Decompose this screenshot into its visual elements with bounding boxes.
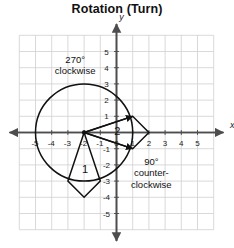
y-tick-label: 3 (104, 79, 108, 88)
clockwise-annotation: 270°clockwise (55, 54, 96, 77)
y-tick-label: -2 (103, 160, 110, 169)
x-tick-label: 1 (130, 138, 134, 147)
y-tick-label: 4 (104, 63, 108, 72)
counterclockwise-degrees: 90° (131, 156, 172, 168)
y-tick-label: 5 (104, 47, 108, 56)
coordinate-plane: -5-4-3-2-101234554321-1-2-3-4-5xy12270°c… (0, 20, 234, 248)
shape-2-label: 2 (114, 125, 120, 137)
x-tick-label: 2 (147, 138, 151, 147)
x-tick-label: -5 (31, 138, 38, 147)
counterclockwise-annotation: 90°counter-clockwise (131, 156, 172, 191)
x-tick-label: 0 (114, 138, 118, 147)
clockwise-direction: clockwise (55, 65, 96, 77)
y-tick-label: -4 (103, 193, 110, 202)
clockwise-degrees: 270° (55, 54, 96, 66)
x-tick-label: -3 (64, 138, 71, 147)
x-tick-label: 5 (195, 138, 199, 147)
counterclockwise-direction-2: clockwise (131, 179, 172, 191)
x-axis-label: x (230, 120, 234, 130)
y-tick-label: 1 (104, 112, 108, 121)
y-tick-label: 2 (104, 96, 108, 105)
y-tick-label: -3 (103, 177, 110, 186)
x-tick-label: -2 (80, 138, 87, 147)
y-tick-label: -1 (103, 144, 110, 153)
rotation-figure: Rotation (Turn) -5-4-3-2-101234554321-1-… (0, 0, 234, 248)
x-tick-label: -4 (48, 138, 55, 147)
y-axis-label: y (119, 12, 124, 22)
x-tick-label: 4 (179, 138, 183, 147)
y-tick-label: -5 (103, 209, 110, 218)
page-title: Rotation (Turn) (0, 2, 234, 16)
shape-1-label: 1 (82, 163, 88, 175)
center-of-rotation-dot (82, 130, 86, 134)
counterclockwise-direction-1: counter- (131, 167, 172, 179)
x-tick-label: 3 (163, 138, 167, 147)
